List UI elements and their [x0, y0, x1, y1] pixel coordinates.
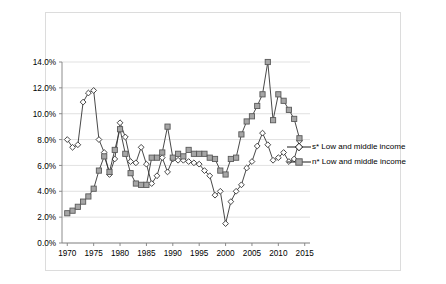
- series-marker-diamond: [149, 181, 155, 187]
- legend-item-s-star: s* Low and middle income: [286, 139, 436, 154]
- ytick-label: 0.0%: [37, 239, 56, 248]
- ytick-label: 4.0%: [37, 187, 56, 196]
- ytick-label: 6.0%: [37, 162, 56, 171]
- series-marker-diamond: [270, 157, 276, 163]
- series-marker-diamond: [186, 159, 192, 165]
- xtick-label: 2000: [216, 249, 235, 258]
- series-marker-diamond: [254, 143, 260, 149]
- series-marker-square: [160, 150, 165, 155]
- chart-legend: s* Low and middle income n* Low and midd…: [286, 139, 436, 169]
- series-marker-square: [276, 92, 281, 97]
- series-marker-square: [286, 107, 291, 112]
- series-marker-square: [133, 181, 138, 186]
- legend-label-n-star: n* Low and middle income: [312, 157, 406, 167]
- series-marker-square: [255, 103, 260, 108]
- series-marker-square: [260, 92, 265, 97]
- series-marker-diamond: [154, 173, 160, 179]
- xtick-label: 1975: [85, 249, 104, 258]
- series-marker-square: [91, 186, 96, 191]
- ytick-label: 2.0%: [37, 213, 56, 222]
- series-marker-square: [117, 127, 122, 132]
- series-marker-diamond: [85, 90, 91, 96]
- series-marker-square: [223, 172, 228, 177]
- xtick-label: 1990: [164, 249, 183, 258]
- legend-label-s-star: s* Low and middle income: [312, 142, 405, 152]
- series-marker-square: [228, 156, 233, 161]
- series-marker-diamond: [133, 160, 139, 166]
- series-marker-diamond: [75, 142, 81, 148]
- series-marker-square: [202, 151, 207, 156]
- xtick-label: 1970: [58, 249, 77, 258]
- series-marker-diamond: [260, 130, 266, 136]
- series-marker-diamond: [138, 144, 144, 150]
- series-marker-square: [86, 194, 91, 199]
- series-marker-square: [149, 155, 154, 160]
- series-marker-square: [270, 118, 275, 123]
- series-marker-square: [154, 155, 159, 160]
- series-marker-square: [112, 147, 117, 152]
- series-marker-square: [197, 151, 202, 156]
- ytick-label: 14.0%: [33, 58, 56, 67]
- series-marker-diamond: [122, 134, 128, 140]
- series-marker-square: [175, 151, 180, 156]
- series-marker-diamond: [228, 199, 234, 205]
- series-marker-diamond: [96, 137, 102, 143]
- xtick-label: 1980: [111, 249, 130, 258]
- series-marker-square: [165, 124, 170, 129]
- series-marker-square: [212, 156, 217, 161]
- xtick-label: 2010: [269, 249, 288, 258]
- series-marker-square: [218, 168, 223, 173]
- series-marker-diamond: [223, 221, 229, 227]
- series-marker-square: [292, 116, 297, 121]
- series-marker-diamond: [64, 137, 70, 143]
- series-marker-square: [281, 98, 286, 103]
- ytick-label: 12.0%: [33, 84, 56, 93]
- series-marker-square: [70, 208, 75, 213]
- series-marker-diamond: [80, 99, 86, 105]
- legend-marker-diamond-icon: [286, 141, 312, 153]
- series-marker-square: [107, 169, 112, 174]
- series-marker-diamond: [144, 161, 150, 167]
- series-marker-square: [128, 171, 133, 176]
- series-marker-square: [123, 151, 128, 156]
- series-marker-square: [234, 155, 239, 160]
- series-marker-square: [65, 211, 70, 216]
- series-marker-square: [207, 155, 212, 160]
- series-marker-square: [239, 132, 244, 137]
- series-marker-diamond: [191, 160, 197, 166]
- ytick-label: 8.0%: [37, 136, 56, 145]
- legend-marker-square-icon: [286, 156, 312, 168]
- series-marker-square: [139, 182, 144, 187]
- series-marker-square: [75, 204, 80, 209]
- series-marker-diamond: [117, 120, 123, 126]
- series-marker-square: [265, 59, 270, 64]
- series-marker-square: [244, 119, 249, 124]
- series-marker-square: [181, 154, 186, 159]
- series-marker-square: [186, 147, 191, 152]
- legend-item-n-star: n* Low and middle income: [286, 154, 436, 169]
- series-marker-square: [96, 168, 101, 173]
- series-marker-diamond: [265, 142, 271, 148]
- series-marker-diamond: [128, 159, 134, 165]
- series-marker-diamond: [159, 155, 165, 161]
- xtick-label: 2015: [296, 249, 315, 258]
- series-marker-square: [81, 199, 86, 204]
- xtick-label: 1995: [190, 249, 209, 258]
- series-marker-square: [191, 151, 196, 156]
- series-marker-diamond: [91, 88, 97, 94]
- series-marker-square: [170, 155, 175, 160]
- series-marker-diamond: [165, 169, 171, 175]
- series-marker-diamond: [70, 144, 76, 150]
- series-marker-square: [249, 114, 254, 119]
- series-marker-square: [144, 182, 149, 187]
- xtick-label: 2005: [243, 249, 262, 258]
- series-marker-square: [102, 154, 107, 159]
- ytick-label: 10.0%: [33, 110, 56, 119]
- xtick-label: 1985: [137, 249, 156, 258]
